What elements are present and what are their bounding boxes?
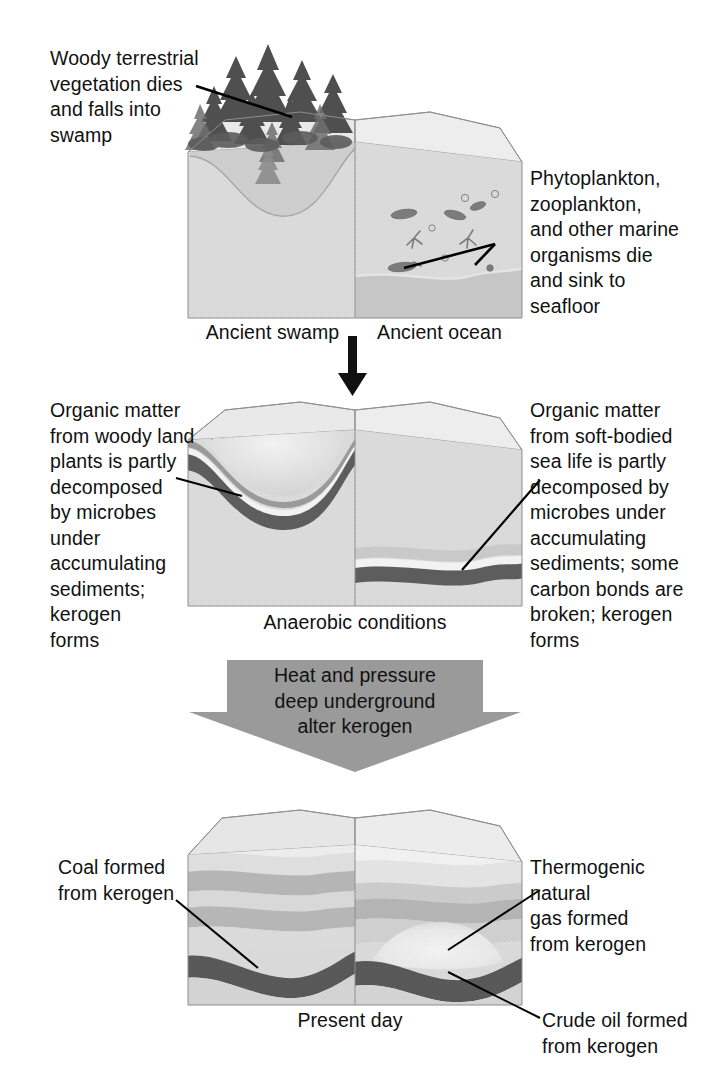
leader-kerogen-marine (462, 480, 540, 570)
leader-plankton (404, 244, 495, 268)
caption-land-kerogen: Organic matter from woody land plants is… (50, 398, 235, 653)
label-anaerobic-conditions: Anaerobic conditions (210, 610, 500, 636)
caption-crude-oil: Crude oil formed from kerogen (542, 1008, 724, 1059)
caption-plankton: Phytoplankton, zooplankton, and other ma… (530, 166, 720, 319)
leader-oil (448, 972, 540, 1018)
stage3-block (186, 810, 528, 1010)
leader-gas (448, 890, 540, 950)
caption-coal-formed: Coal formed from kerogen (58, 855, 238, 906)
caption-marine-kerogen: Organic matter from soft-bodied sea life… (530, 398, 724, 653)
stage2-block (185, 402, 524, 617)
label-ancient-swamp: Ancient swamp (190, 320, 355, 346)
diagram-root: Woody terrestrial vegetation dies and fa… (0, 0, 724, 1084)
caption-woody-vegetation: Woody terrestrial vegetation dies and fa… (50, 46, 240, 148)
label-ancient-ocean: Ancient ocean (357, 320, 522, 346)
leader-coal (176, 900, 258, 968)
label-heat-and-pressure: Heat and pressure deep underground alter… (230, 663, 480, 740)
label-present-day: Present day (255, 1008, 445, 1034)
caption-thermogenic-gas: Thermogenic natural gas formed from kero… (530, 855, 720, 957)
